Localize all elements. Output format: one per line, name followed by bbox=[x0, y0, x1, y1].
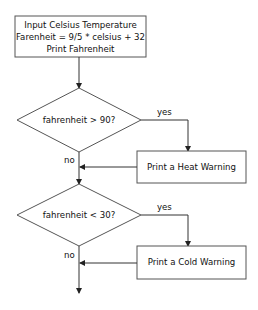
decision2-yes-label: yes bbox=[157, 202, 172, 212]
decision-diamond-cold: fahrenheit < 30? bbox=[17, 184, 141, 246]
decision1-yes-label: yes bbox=[157, 107, 172, 117]
start-line-2: Farenheit = 9/5 * celsius + 32 bbox=[16, 32, 145, 42]
decision-diamond-heat: fahrenheit > 90? bbox=[17, 88, 141, 152]
decision2-no-label: no bbox=[64, 250, 75, 260]
decision1-no-label: no bbox=[64, 155, 75, 165]
heat-warning-label: Print a Heat Warning bbox=[147, 162, 236, 172]
process-box-start: Input Celsius Temperature Farenheit = 9/… bbox=[15, 16, 146, 57]
start-line-3: Print Fahrenheit bbox=[47, 44, 116, 54]
edge-decision2-yes bbox=[141, 215, 188, 246]
decision2-label: fahrenheit < 30? bbox=[43, 210, 115, 220]
decision1-label: fahrenheit > 90? bbox=[43, 115, 115, 125]
start-line-1: Input Celsius Temperature bbox=[24, 20, 137, 30]
edge-decision1-yes bbox=[141, 120, 188, 151]
flowchart: Input Celsius Temperature Farenheit = 9/… bbox=[0, 0, 258, 310]
cold-warning-label: Print a Cold Warning bbox=[148, 257, 236, 267]
process-box-heat-warning: Print a Heat Warning bbox=[137, 151, 246, 183]
process-box-cold-warning: Print a Cold Warning bbox=[137, 246, 246, 279]
